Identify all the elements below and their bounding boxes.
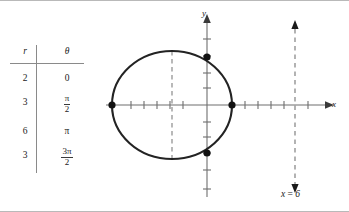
x-axis (106, 101, 334, 109)
asymptote-label: x = 6 (281, 189, 300, 199)
point-theta-0 (228, 101, 235, 108)
y-axis-label: y (202, 8, 206, 18)
asymptote-label-equals: = (285, 189, 295, 199)
x-axis-label: x (332, 99, 336, 109)
asymptote-label-value: 6 (295, 189, 300, 199)
point-theta-3pi-over-2 (203, 149, 210, 156)
figure-container: r 2 3 6 3 θ 0 π 2 π 3π 2 (0, 0, 349, 212)
point-theta-pi (108, 101, 115, 108)
point-theta-pi-over-2 (203, 53, 210, 60)
polar-plot (0, 1, 349, 212)
asymptote-line-x-equals-6 (291, 20, 298, 193)
